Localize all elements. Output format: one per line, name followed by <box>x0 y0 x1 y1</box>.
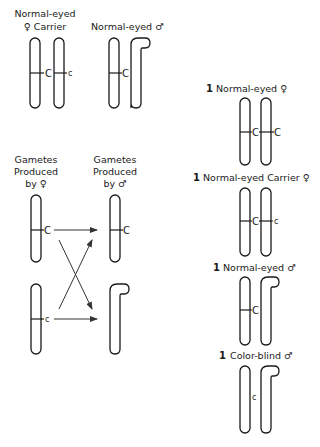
parent-female-label-2: ♀ Carrier <box>24 21 67 32</box>
svg-text:C: C <box>252 216 259 227</box>
gametes-male-header: Gametes Produced by ♂ <box>93 154 137 189</box>
offspring-colorblind-male: 1 Color-blind ♂ c <box>219 350 293 433</box>
svg-text:C: C <box>274 127 281 138</box>
allele-label: C <box>122 68 129 79</box>
svg-text:by ♀: by ♀ <box>25 178 47 189</box>
parent-male-label: Normal-eyed ♂ <box>91 21 164 32</box>
svg-text:Normal-eyed ♀: Normal-eyed ♀ <box>216 83 287 94</box>
gametes-female-header: Gametes Produced by ♀ <box>14 154 58 189</box>
svg-text:C: C <box>44 225 51 236</box>
x-chromosome <box>240 188 250 256</box>
y-chromosome <box>261 277 279 345</box>
x-chromosome <box>110 195 120 262</box>
color-blindness-inheritance-diagram: Normal-eyed ♀ Carrier C c Normal-eyed ♂ … <box>0 0 320 447</box>
svg-text:1: 1 <box>213 262 220 273</box>
svg-text:Gametes: Gametes <box>94 154 137 165</box>
y-chromosome <box>261 366 279 433</box>
svg-text:Normal-eyed Carrier ♀: Normal-eyed Carrier ♀ <box>203 172 310 183</box>
svg-text:1: 1 <box>206 83 213 94</box>
svg-text:C: C <box>252 305 259 316</box>
allele-label: c <box>68 69 72 78</box>
y-chromosome <box>110 284 129 354</box>
parent-female: Normal-eyed ♀ Carrier C c <box>14 8 75 108</box>
svg-text:C: C <box>252 127 259 138</box>
svg-text:by ♂: by ♂ <box>103 178 126 189</box>
allele-label: C <box>45 68 52 79</box>
svg-text:Gametes: Gametes <box>15 154 58 165</box>
offspring-carrier-female: 1 Normal-eyed Carrier ♀ C c <box>193 172 310 256</box>
svg-text:Color-blind ♂: Color-blind ♂ <box>230 350 293 361</box>
cross-arrows <box>54 230 97 319</box>
svg-text:c: c <box>45 315 49 324</box>
svg-text:C: C <box>123 225 130 236</box>
svg-text:Produced: Produced <box>93 166 137 177</box>
gamete-female-C: C <box>31 195 51 262</box>
x-chromosome <box>240 366 250 433</box>
svg-text:1: 1 <box>219 350 226 361</box>
parent-male: Normal-eyed ♂ C <box>91 21 164 108</box>
svg-text:1: 1 <box>193 172 200 183</box>
x-chromosome <box>31 195 41 262</box>
y-chromosome <box>131 38 150 108</box>
offspring-normal-female: 1 Normal-eyed ♀ C C <box>206 83 287 165</box>
gamete-male-X: C <box>110 195 130 262</box>
svg-text:c: c <box>274 217 278 226</box>
svg-text:Produced: Produced <box>14 166 58 177</box>
parent-female-label-1: Normal-eyed <box>14 8 75 19</box>
x-chromosome <box>261 188 271 256</box>
x-chromosome <box>240 277 250 345</box>
svg-text:Normal-eyed ♂: Normal-eyed ♂ <box>223 262 296 273</box>
offspring-normal-male: 1 Normal-eyed ♂ C <box>213 262 296 345</box>
gamete-male-Y <box>110 284 129 354</box>
svg-text:c: c <box>252 393 256 402</box>
gamete-female-c: c <box>31 284 49 354</box>
